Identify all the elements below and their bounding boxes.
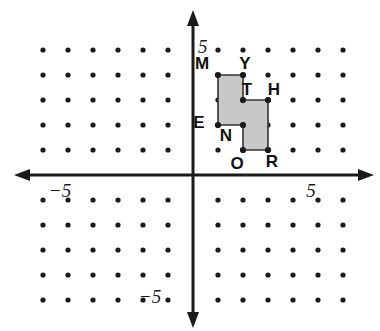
grid-dot xyxy=(40,47,45,52)
grid-dot xyxy=(115,72,120,77)
grid-dot xyxy=(40,272,45,277)
grid-dot xyxy=(140,222,145,227)
grid-dot xyxy=(40,147,45,152)
grid-dot xyxy=(90,247,95,252)
grid-dot xyxy=(40,222,45,227)
grid-dot xyxy=(340,272,345,277)
grid-dot xyxy=(115,97,120,102)
grid-dot xyxy=(65,247,70,252)
y-axis-label-negative-five: −5 xyxy=(139,286,161,307)
grid-dot xyxy=(290,72,295,77)
grid-dot xyxy=(65,272,70,277)
grid-dot xyxy=(315,97,320,102)
grid-dot xyxy=(40,197,45,202)
grid-dot xyxy=(215,272,220,277)
grid-dot xyxy=(290,222,295,227)
grid-dot xyxy=(65,222,70,227)
grid-dot xyxy=(140,147,145,152)
grid-dot xyxy=(315,272,320,277)
grid-dot xyxy=(165,197,170,202)
polygon-vertex-dot-o xyxy=(240,147,246,153)
grid-dot xyxy=(315,147,320,152)
grid-dot xyxy=(240,222,245,227)
canvas-background xyxy=(0,0,380,331)
grid-dot xyxy=(290,122,295,127)
grid-dot xyxy=(265,222,270,227)
grid-dot xyxy=(265,297,270,302)
grid-dot xyxy=(215,47,220,52)
grid-dot xyxy=(265,47,270,52)
grid-dot xyxy=(340,97,345,102)
grid-dot xyxy=(215,147,220,152)
grid-dot xyxy=(140,47,145,52)
grid-dot xyxy=(65,72,70,77)
grid-dot xyxy=(265,197,270,202)
grid-dot xyxy=(40,97,45,102)
grid-dot xyxy=(315,247,320,252)
grid-dot xyxy=(265,247,270,252)
grid-dot xyxy=(340,122,345,127)
grid-dot xyxy=(340,47,345,52)
grid-dot xyxy=(140,197,145,202)
grid-dot xyxy=(165,272,170,277)
polygon-vertex-dot-n xyxy=(240,122,246,128)
grid-dot xyxy=(240,247,245,252)
grid-dot xyxy=(65,297,70,302)
grid-dot xyxy=(115,47,120,52)
grid-dot xyxy=(140,97,145,102)
grid-dot xyxy=(140,272,145,277)
grid-dot xyxy=(115,297,120,302)
grid-dot xyxy=(40,247,45,252)
grid-dot xyxy=(315,197,320,202)
grid-dot xyxy=(290,97,295,102)
grid-dot xyxy=(340,222,345,227)
grid-dot xyxy=(215,297,220,302)
grid-dot xyxy=(165,122,170,127)
vertex-label-e: E xyxy=(193,113,204,132)
grid-dot xyxy=(290,197,295,202)
grid-dot xyxy=(290,247,295,252)
grid-dot xyxy=(290,272,295,277)
grid-dot xyxy=(115,122,120,127)
grid-dot xyxy=(215,222,220,227)
grid-dot xyxy=(115,197,120,202)
grid-dot xyxy=(165,247,170,252)
grid-dot xyxy=(115,147,120,152)
grid-dot xyxy=(40,297,45,302)
grid-dot xyxy=(40,122,45,127)
grid-dot xyxy=(315,122,320,127)
y-axis-label-positive-five: 5 xyxy=(198,36,208,57)
grid-dot xyxy=(90,72,95,77)
x-axis-label-negative-five: −5 xyxy=(49,180,71,201)
figure-canvas: MYTHRONE −5 5 5 −5 xyxy=(0,0,380,331)
grid-dot xyxy=(165,222,170,227)
grid-dot xyxy=(240,272,245,277)
coordinate-plane: MYTHRONE −5 5 5 −5 xyxy=(0,0,380,331)
grid-dot xyxy=(215,247,220,252)
x-axis-label-positive-five: 5 xyxy=(306,180,316,201)
grid-dot xyxy=(165,47,170,52)
grid-dot xyxy=(90,147,95,152)
grid-dot xyxy=(340,197,345,202)
grid-dot xyxy=(165,297,170,302)
grid-dot xyxy=(240,47,245,52)
grid-dot xyxy=(290,47,295,52)
grid-dot xyxy=(40,72,45,77)
grid-dot xyxy=(340,72,345,77)
vertex-label-t: T xyxy=(242,80,253,99)
grid-dot xyxy=(90,47,95,52)
grid-dot xyxy=(115,272,120,277)
grid-dot xyxy=(290,147,295,152)
grid-dot xyxy=(165,72,170,77)
vertex-label-y: Y xyxy=(239,54,251,73)
grid-dot xyxy=(140,247,145,252)
grid-dot xyxy=(115,247,120,252)
vertex-label-o: O xyxy=(230,154,243,173)
grid-dot xyxy=(340,247,345,252)
grid-dot xyxy=(340,147,345,152)
grid-dot xyxy=(290,297,295,302)
grid-dot xyxy=(140,72,145,77)
grid-dot xyxy=(240,197,245,202)
grid-dot xyxy=(90,297,95,302)
grid-dot xyxy=(315,47,320,52)
